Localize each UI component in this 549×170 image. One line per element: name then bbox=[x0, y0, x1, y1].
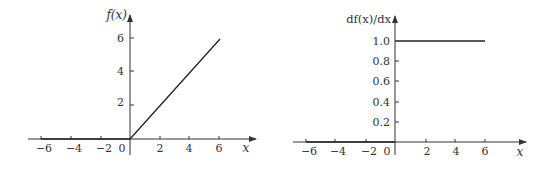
x-axis-label: x bbox=[517, 145, 524, 159]
chart-canvas: −6 −4 −2 0 2 4 6 x 2 4 6 f(x) −6 bbox=[0, 0, 549, 170]
x-axis-label: x bbox=[243, 141, 250, 155]
x-tick-label: 6 bbox=[482, 145, 489, 158]
x-tick-label: −4 bbox=[330, 145, 346, 158]
x-tick-label: −2 bbox=[361, 145, 377, 158]
y-axis-label: f(x) bbox=[105, 8, 127, 22]
y-ticks bbox=[395, 61, 399, 122]
x-tick-label: 6 bbox=[216, 142, 223, 155]
y-ticks bbox=[130, 38, 134, 105]
x-tick-label: −6 bbox=[301, 145, 317, 158]
x-tick-label: −4 bbox=[66, 142, 82, 155]
y-tick-label: 1.0 bbox=[373, 35, 391, 48]
x-tick-label: 2 bbox=[424, 145, 431, 158]
y-tick-label: 0.8 bbox=[373, 55, 391, 68]
relu-derivative-chart: −6 −4 −2 0 2 4 6 x 0.2 0.4 0.6 0.8 1.0 d… bbox=[293, 12, 526, 159]
x-tick-label: −2 bbox=[96, 142, 112, 155]
y-tick-label: 0.2 bbox=[373, 116, 391, 129]
y-axis-label: df(x)/dx bbox=[346, 12, 391, 26]
x-tick-label: −6 bbox=[36, 142, 52, 155]
x-tick-label: 4 bbox=[186, 142, 193, 155]
x-tick-label: 0 bbox=[119, 142, 126, 155]
y-tick-label: 4 bbox=[117, 65, 124, 78]
x-tick-label: 4 bbox=[453, 145, 460, 158]
y-tick-label: 0.4 bbox=[373, 96, 391, 109]
y-tick-label: 6 bbox=[117, 32, 124, 45]
x-tick-label: 2 bbox=[157, 142, 164, 155]
y-tick-label: 0.6 bbox=[373, 75, 391, 88]
x-tick-label: 0 bbox=[384, 145, 391, 158]
y-tick-label: 2 bbox=[117, 96, 124, 109]
relu-function-chart: −6 −4 −2 0 2 4 6 x 2 4 6 f(x) bbox=[28, 8, 256, 155]
